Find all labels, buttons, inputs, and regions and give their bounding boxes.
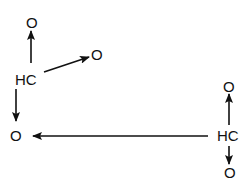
left-right-o-label: O xyxy=(91,46,103,63)
right-hc-label: HC xyxy=(217,127,239,144)
right-top-o-label: O xyxy=(223,78,235,95)
reaction-diagram: HC O O O HC O O xyxy=(0,0,252,192)
right-bottom-o-label: O xyxy=(224,164,236,181)
left-top-o-label: O xyxy=(26,14,38,31)
arrow-left-hc-to-right-o xyxy=(44,57,89,72)
left-hc-label: HC xyxy=(15,71,37,88)
left-bottom-o-label: O xyxy=(10,127,22,144)
